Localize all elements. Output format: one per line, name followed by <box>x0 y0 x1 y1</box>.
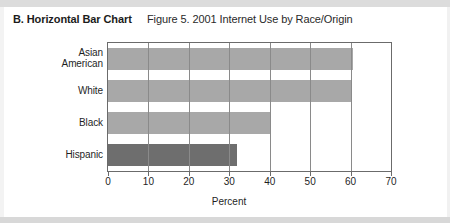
x-axis-title-text: Percent <box>212 196 246 207</box>
y-label-hispanic: Hispanic <box>0 149 103 160</box>
x-tick-label-70: 70 <box>376 176 406 187</box>
chart-page: B. Horizontal Bar Chart Figure 5. 2001 I… <box>0 0 450 223</box>
section-heading: B. Horizontal Bar Chart <box>13 13 132 25</box>
x-tick-label-40: 40 <box>255 176 285 187</box>
gridline-50 <box>310 43 311 171</box>
scan-artifact-top <box>0 0 450 7</box>
gridline-40 <box>270 43 271 171</box>
y-label-white: White <box>0 85 103 96</box>
x-tick-label-50: 50 <box>295 176 325 187</box>
scan-artifact-bottom <box>0 217 450 223</box>
gridline-10 <box>148 43 149 171</box>
y-axis-category-labels: AsianAmericanWhiteBlackHispanic <box>0 42 103 172</box>
x-tick-label-0: 0 <box>93 176 123 187</box>
y-label-line: White <box>0 85 103 96</box>
bar-asian-american[interactable] <box>108 48 353 70</box>
x-axis-ticks: 010203040506070 <box>107 172 392 188</box>
y-label-line: American <box>0 58 103 69</box>
x-tick-label-10: 10 <box>133 176 163 187</box>
x-tick-label-60: 60 <box>336 176 366 187</box>
x-tick-label-20: 20 <box>174 176 204 187</box>
figure-title: Figure 5. 2001 Internet Use by Race/Orig… <box>147 13 353 25</box>
bar-hispanic[interactable] <box>108 144 237 166</box>
x-tick-label-30: 30 <box>214 176 244 187</box>
plot-area <box>107 42 392 172</box>
x-axis-title: Percent <box>0 196 450 207</box>
y-label-line: Hispanic <box>0 149 103 160</box>
y-label-line: Black <box>0 117 103 128</box>
gridline-20 <box>189 43 190 171</box>
gridline-60 <box>351 43 352 171</box>
gridline-30 <box>229 43 230 171</box>
y-label-line: Asian <box>0 47 103 58</box>
y-label-asian-american: AsianAmerican <box>0 47 103 69</box>
y-label-black: Black <box>0 117 103 128</box>
bar-series <box>108 43 391 171</box>
